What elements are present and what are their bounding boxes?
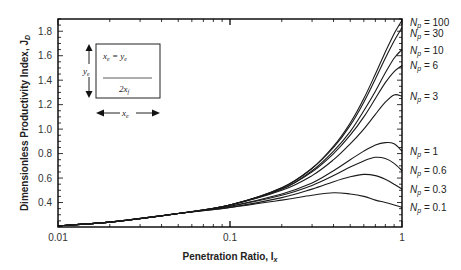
- y-tick-label: 0.6: [38, 173, 52, 184]
- x-tick-label: 0.1: [223, 232, 237, 243]
- plot-background: [0, 0, 461, 270]
- y-tick-label: 1.4: [38, 75, 52, 86]
- x-tick-label: 0.01: [48, 232, 68, 243]
- productivity-index-chart: 0.40.60.81.01.21.41.61.80.010.11 Np = 10…: [0, 0, 461, 270]
- y-tick-label: 1.2: [38, 99, 52, 110]
- y-tick-label: 0.8: [38, 148, 52, 159]
- y-tick-label: 1.8: [38, 26, 52, 37]
- y-tick-label: 1.0: [38, 124, 52, 135]
- x-tick-label: 1: [399, 232, 405, 243]
- x-axis-title: Penetration Ratio, Ix: [182, 251, 278, 263]
- y-tick-label: 1.6: [38, 50, 52, 61]
- inset-top-equation: xe = ye: [102, 51, 127, 62]
- y-tick-label: 0.4: [38, 197, 52, 208]
- y-axis-title: Dimensionless Productivity Index, JD: [19, 35, 31, 211]
